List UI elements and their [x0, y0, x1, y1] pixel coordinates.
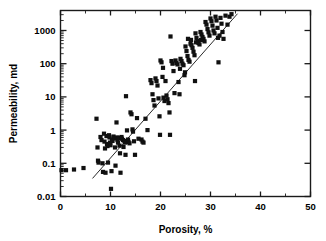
x-tick-label: 10	[105, 201, 116, 212]
data-point	[229, 12, 233, 16]
data-point	[127, 141, 131, 145]
data-point	[131, 130, 135, 134]
data-point	[125, 128, 129, 132]
data-point	[161, 66, 165, 70]
data-point-group	[59, 12, 233, 191]
data-point	[183, 44, 187, 48]
data-point	[151, 98, 155, 102]
data-point	[190, 46, 194, 50]
data-point	[185, 54, 189, 58]
data-point	[181, 63, 185, 67]
data-point	[163, 79, 167, 83]
data-point	[166, 101, 170, 105]
y-tick-label: 1	[50, 125, 56, 136]
data-point	[64, 168, 68, 172]
x-tick-label: 30	[205, 201, 216, 212]
x-tick-label: 50	[305, 201, 316, 212]
data-point	[152, 103, 156, 107]
data-point	[109, 169, 113, 173]
data-point	[194, 40, 198, 44]
data-point	[96, 160, 100, 164]
data-point	[109, 187, 113, 191]
data-point	[150, 92, 154, 96]
data-point	[164, 93, 168, 97]
data-point	[156, 96, 160, 100]
scatter-plot: 010203040500.010.11101001000Porosity, %P…	[0, 0, 326, 241]
data-point	[217, 34, 221, 38]
data-point	[207, 34, 211, 38]
y-tick-label: 1000	[34, 25, 55, 36]
data-point	[171, 69, 175, 73]
data-point	[165, 97, 169, 101]
data-point	[121, 145, 125, 149]
data-point	[177, 92, 181, 96]
data-point	[220, 30, 224, 34]
x-tick-label: 0	[58, 201, 63, 212]
data-point	[225, 23, 229, 27]
data-point	[193, 31, 197, 35]
data-point	[168, 34, 172, 38]
x-tick-label: 40	[255, 201, 266, 212]
x-tick-label: 20	[155, 201, 166, 212]
data-point	[100, 161, 104, 165]
data-point	[159, 60, 163, 64]
data-point	[189, 38, 193, 42]
x-axis-title: Porosity, %	[159, 224, 213, 235]
data-point	[133, 153, 137, 157]
y-axis-title: Permeability, md	[8, 64, 19, 143]
data-point	[95, 145, 99, 149]
y-tick-label: 0.1	[42, 158, 56, 169]
data-point	[199, 38, 203, 42]
data-point	[117, 144, 121, 148]
data-point	[143, 117, 147, 121]
data-point	[149, 81, 153, 85]
data-point	[214, 18, 218, 22]
data-point	[81, 166, 85, 170]
data-point	[94, 117, 98, 121]
data-point	[145, 128, 149, 132]
data-point	[113, 145, 117, 149]
data-point	[221, 37, 225, 41]
data-point	[213, 15, 217, 19]
data-point	[176, 80, 180, 84]
data-point	[187, 60, 191, 64]
data-point	[129, 112, 133, 116]
y-tick-label: 0.01	[37, 191, 56, 202]
data-point	[118, 151, 122, 155]
data-point	[118, 171, 122, 175]
data-point	[103, 171, 107, 175]
data-point	[124, 94, 128, 98]
data-point	[59, 168, 63, 172]
data-point	[218, 16, 222, 20]
data-point	[204, 23, 208, 27]
data-point	[219, 22, 223, 26]
data-point	[209, 19, 213, 23]
data-point	[183, 70, 187, 74]
data-point	[223, 14, 227, 18]
figure-container: 010203040500.010.11101001000Porosity, %P…	[0, 0, 326, 241]
data-point	[72, 167, 76, 171]
data-point	[175, 62, 179, 66]
data-point	[158, 133, 162, 137]
data-point	[192, 53, 196, 57]
y-tick-label: 100	[40, 58, 56, 69]
data-point	[155, 83, 159, 87]
data-point	[106, 160, 110, 164]
data-point	[135, 116, 139, 120]
data-point	[154, 79, 158, 83]
data-point	[215, 26, 219, 30]
data-point	[193, 79, 197, 83]
data-point	[123, 153, 127, 157]
data-point	[108, 143, 112, 147]
data-point	[184, 49, 188, 53]
data-point	[157, 114, 161, 118]
data-point	[113, 164, 117, 168]
data-point	[132, 139, 136, 143]
data-point	[172, 91, 176, 95]
data-point	[167, 110, 171, 114]
data-point	[141, 141, 145, 145]
data-point	[168, 133, 172, 137]
data-point	[160, 75, 164, 79]
data-point	[210, 24, 214, 28]
plot-frame	[61, 11, 311, 197]
